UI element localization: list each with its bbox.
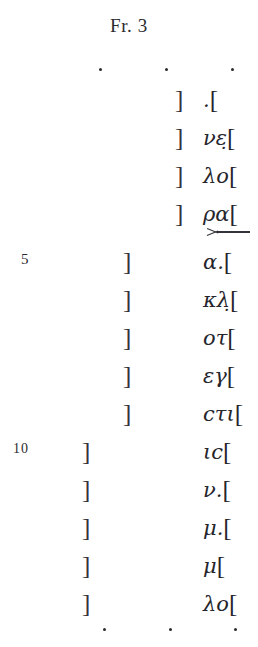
- line-number: 10: [13, 441, 29, 457]
- lacuna-dot: [103, 628, 106, 631]
- lacuna-dot: [234, 628, 237, 631]
- left-lacuna-bracket: ]: [123, 359, 131, 393]
- left-lacuna-bracket: ]: [82, 435, 90, 469]
- text-line: ]μ[: [0, 549, 258, 583]
- greek-text: κλ̣[: [203, 283, 238, 317]
- greek-text: νε̣[: [203, 121, 235, 155]
- text-line: ]λο[: [0, 159, 258, 193]
- text-line: 5]α.[: [0, 245, 258, 279]
- text-line: ]οτ[: [0, 321, 258, 355]
- text-line: ]ν.[: [0, 473, 258, 507]
- left-lacuna-bracket: ]: [82, 511, 90, 545]
- text-line: ]κλ̣[: [0, 283, 258, 317]
- greek-text: α.[: [203, 245, 232, 279]
- greek-text: μ[: [203, 549, 225, 583]
- greek-text: ιc[: [203, 435, 231, 469]
- text-line: ]νε̣[: [0, 121, 258, 155]
- lacuna-dot: [99, 68, 102, 71]
- left-lacuna-bracket: ]: [175, 159, 183, 193]
- lacuna-dot: [231, 68, 234, 71]
- text-line: 10]ιc[: [0, 435, 258, 469]
- fragment-title: Fr. 3: [0, 15, 258, 37]
- bottom-lacuna-dots: [0, 624, 258, 636]
- greek-text: λο[: [203, 587, 237, 621]
- lacuna-dot: [165, 68, 168, 71]
- left-lacuna-bracket: ]: [123, 321, 131, 355]
- text-line: ]cτι[: [0, 397, 258, 431]
- top-lacuna-dots: [0, 64, 258, 76]
- greek-text: λο[: [203, 159, 237, 193]
- left-lacuna-bracket: ]: [82, 587, 90, 621]
- greek-text: cτι[: [203, 397, 243, 431]
- greek-text: ν.[: [203, 473, 231, 507]
- left-lacuna-bracket: ]: [175, 197, 183, 231]
- left-lacuna-bracket: ]: [175, 121, 183, 155]
- left-lacuna-bracket: ]: [175, 83, 183, 117]
- paragraphos-rule: [217, 231, 250, 233]
- greek-text: εγ[: [203, 359, 235, 393]
- greek-text: μ.[: [203, 511, 232, 545]
- left-lacuna-bracket: ]: [123, 283, 131, 317]
- left-lacuna-bracket: ]: [82, 549, 90, 583]
- line-number: 5: [21, 251, 29, 268]
- greek-text: .[: [203, 83, 218, 117]
- fragment-page: Fr. 3 ].[]νε̣[]λο[]ρα[5]α.[]κλ̣[]οτ[]εγ[…: [0, 0, 258, 647]
- text-line: ]λο[: [0, 587, 258, 621]
- left-lacuna-bracket: ]: [82, 473, 90, 507]
- greek-text: οτ[: [203, 321, 236, 355]
- left-lacuna-bracket: ]: [123, 245, 131, 279]
- text-line: ]εγ[: [0, 359, 258, 393]
- paragraphos-mark: [206, 226, 250, 242]
- text-line: ].[: [0, 83, 258, 117]
- text-line: ]μ.[: [0, 511, 258, 545]
- left-lacuna-bracket: ]: [123, 397, 131, 431]
- lacuna-dot: [169, 628, 172, 631]
